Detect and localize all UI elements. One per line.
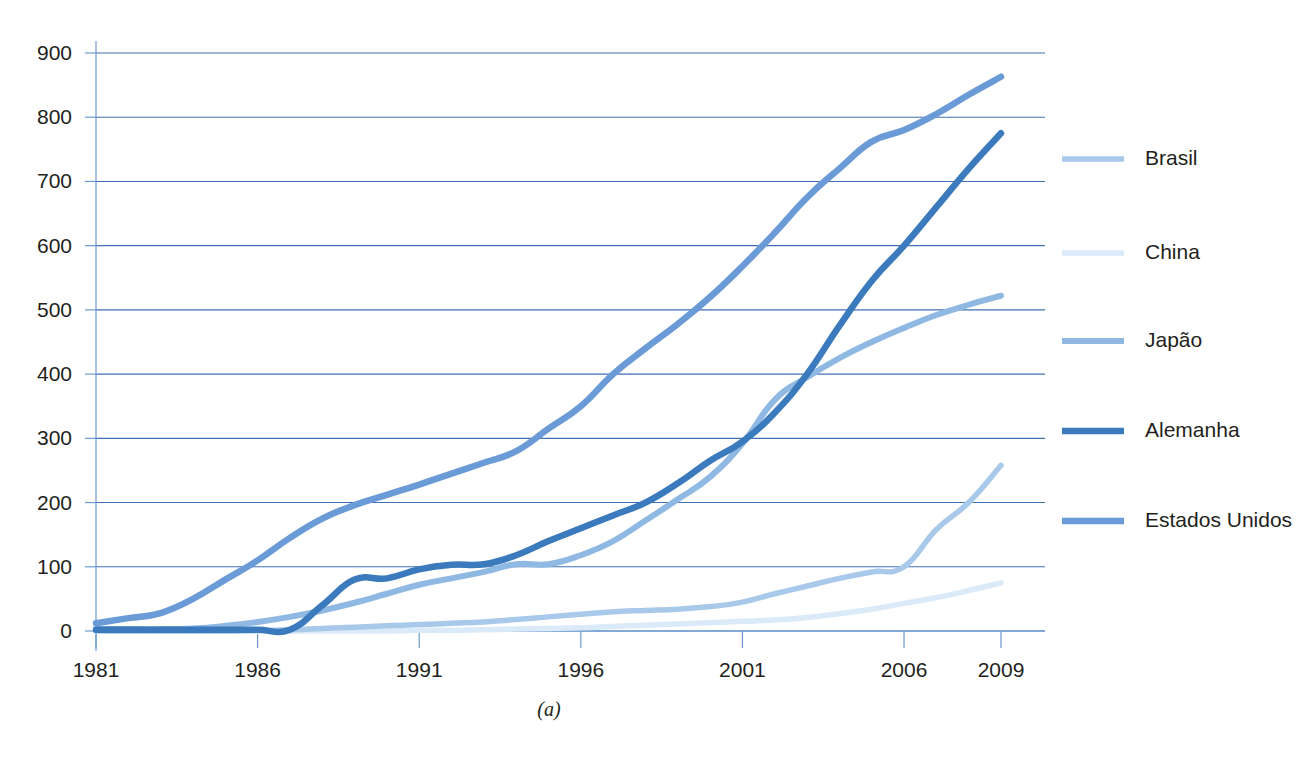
line-chart: 0100200300400500600700800900 19811986199… [0,0,1307,778]
y-tick-label-700: 700 [37,169,72,192]
x-tick-label-1986: 1986 [234,658,281,681]
x-tick-label-1991: 1991 [396,658,443,681]
series-line-brasil [96,465,1001,631]
y-tick-marks [85,53,96,631]
y-tick-label-400: 400 [37,362,72,385]
x-axis-tick-labels: 1981198619911996200120062009 [73,658,1025,681]
legend-item-estados-unidos[interactable]: Estados Unidos [1062,508,1292,531]
legend-label: Japão [1145,328,1202,351]
chart-legend: BrasilChinaJapãoAlemanhaEstados Unidos [1062,146,1292,531]
legend-item-china[interactable]: China [1062,240,1200,263]
figure-container: 0100200300400500600700800900 19811986199… [0,0,1307,778]
y-tick-label-100: 100 [37,555,72,578]
y-tick-label-600: 600 [37,234,72,257]
figure-caption: (a) [537,698,561,721]
legend-item-brasil[interactable]: Brasil [1062,146,1198,169]
legend-item-alemanha[interactable]: Alemanha [1062,418,1240,441]
y-tick-label-0: 0 [60,619,72,642]
x-tick-label-2001: 2001 [719,658,766,681]
y-axis-tick-labels: 0100200300400500600700800900 [37,41,72,642]
legend-label: Alemanha [1145,418,1240,441]
legend-label: Estados Unidos [1145,508,1292,531]
series-line-alemanha [96,133,1001,632]
legend-label: China [1145,240,1200,263]
y-tick-label-300: 300 [37,426,72,449]
y-tick-label-800: 800 [37,105,72,128]
y-tick-label-200: 200 [37,491,72,514]
y-tick-label-900: 900 [37,41,72,64]
data-series [96,77,1001,632]
legend-item-japão[interactable]: Japão [1062,328,1202,351]
x-tick-label-2009: 2009 [978,658,1025,681]
x-tick-label-1981: 1981 [73,658,120,681]
x-tick-label-2006: 2006 [881,658,928,681]
legend-label: Brasil [1145,146,1198,169]
x-tick-label-1996: 1996 [557,658,604,681]
y-tick-label-500: 500 [37,298,72,321]
